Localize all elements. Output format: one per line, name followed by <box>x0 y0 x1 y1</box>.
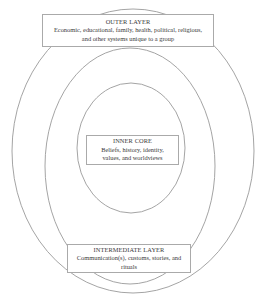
intermediate-layer-title: INTERMEDIATE LAYER <box>68 246 190 254</box>
inner-core-desc-line2: values, and worldviews <box>87 154 178 162</box>
intermediate-layer-desc-line1: Communication(s), customs, stories, and <box>68 254 190 262</box>
outer-layer-desc-line1: Economic, educational, family, health, p… <box>43 26 213 34</box>
outer-layer-title: OUTER LAYER <box>43 18 213 26</box>
intermediate-layer-label-box: INTERMEDIATE LAYER Communication(s), cus… <box>67 244 191 273</box>
outer-layer-label-box: OUTER LAYER Economic, educational, famil… <box>42 14 214 47</box>
outer-layer-desc-line2: and other systems unique to a group <box>43 35 213 43</box>
intermediate-layer-desc-line2: rituals <box>68 263 190 271</box>
inner-core-title: INNER CORE <box>87 137 178 145</box>
inner-core-desc-line1: Beliefs, history, identity, <box>87 146 178 154</box>
inner-core-label-box: INNER CORE Beliefs, history, identity, v… <box>86 135 179 165</box>
